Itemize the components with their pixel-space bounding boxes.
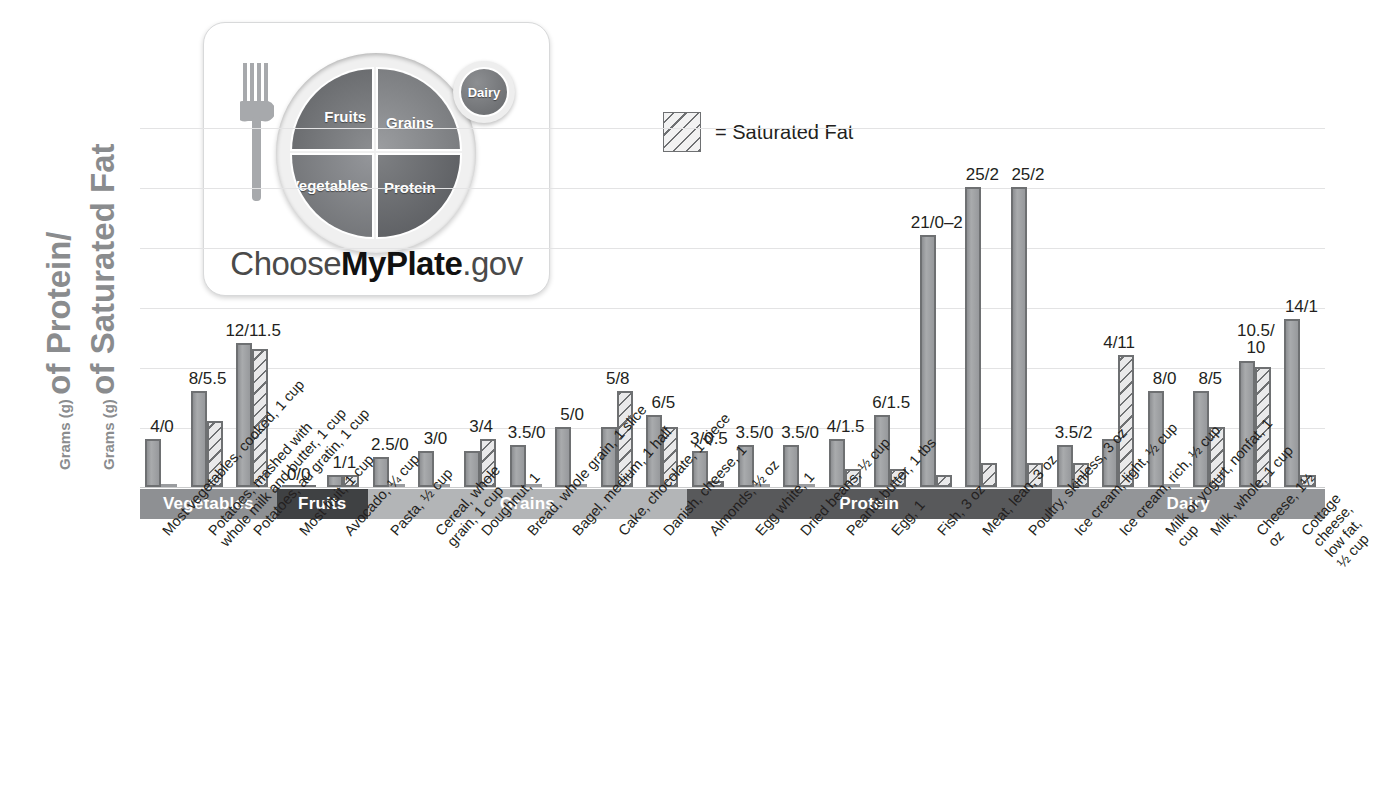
bar-value-label: 21/0–2 [906, 214, 968, 231]
bar-protein [145, 439, 161, 487]
x-axis-baseline [140, 487, 1325, 488]
plate-dairy-cup: Dairy [453, 61, 515, 123]
gridline-25g [140, 188, 1325, 189]
y-axis-units-protein: Grams (g) [56, 399, 73, 470]
bar-value-label: 5/0 [541, 406, 603, 423]
y-axis-label-fat: of Saturated Fat [84, 143, 121, 394]
bar-saturated-fat [981, 463, 997, 487]
gridline-15g [140, 308, 1325, 309]
bar-protein [191, 391, 207, 487]
bar-value-label: 6/1.5 [860, 394, 922, 411]
bar-protein [965, 187, 981, 487]
y-axis-units-fat: Grams (g) [100, 399, 117, 470]
bar-value-label: 8/5 [1179, 370, 1241, 387]
bar-value-label: 14/1 [1270, 298, 1332, 315]
gridline-20g [140, 248, 1325, 249]
bar-value-label: 3.5/2 [1043, 424, 1105, 441]
bar-group [145, 439, 177, 487]
bar-value-label: 3.5/0 [496, 424, 558, 441]
plate-dairy-inner: Dairy [459, 67, 509, 117]
bar-value-label: 8/5.5 [177, 370, 239, 387]
bar-value-label: 25/2 [997, 166, 1059, 183]
bar-value-label: 4/11 [1088, 334, 1150, 351]
y-axis-title-protein: Grams (g) of Protein/ [40, 232, 78, 470]
bar-value-label: 10.5/ 10 [1225, 322, 1287, 356]
gridline-10g [140, 368, 1325, 369]
bar-saturated-fat [161, 484, 177, 487]
y-axis-label-protein: of Protein/ [40, 232, 77, 395]
bar-value-label: 4/0 [131, 418, 193, 435]
plate-label-fruits: Fruits [324, 108, 366, 125]
bar-saturated-fat [936, 475, 952, 487]
plate-label-dairy: Dairy [468, 85, 501, 100]
bar-value-label: 4/1.5 [815, 418, 877, 435]
bar-value-label: 12/11.5 [222, 322, 284, 339]
bar-value-label: 5/8 [587, 370, 649, 387]
bar-group [1284, 319, 1316, 487]
y-axis-title-saturated-fat: Grams (g) of Saturated Fat [84, 143, 122, 470]
bar-group [965, 187, 997, 487]
bar-protein [236, 343, 252, 487]
bar-group [1011, 187, 1043, 487]
gridline-30g [140, 128, 1325, 129]
bar-protein [1011, 187, 1027, 487]
